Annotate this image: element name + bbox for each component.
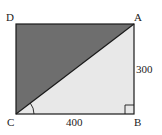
vertex-label-d: D <box>6 11 14 23</box>
geometry-diagram: D A C B 400 300 <box>0 0 162 135</box>
vertex-label-b: B <box>134 116 141 128</box>
dimension-label-ab: 300 <box>136 63 153 75</box>
vertex-label-c: C <box>7 116 14 128</box>
dimension-label-cb: 400 <box>66 116 83 128</box>
vertex-label-a: A <box>134 11 142 23</box>
